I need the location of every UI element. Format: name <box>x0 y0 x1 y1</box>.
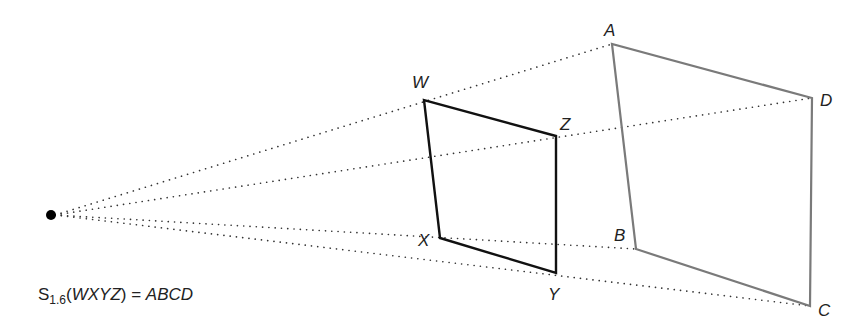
image-quadrilateral-abcd <box>612 44 812 306</box>
ray-to-d <box>55 98 812 215</box>
vertex-label-x: X <box>417 231 430 250</box>
vertex-label-z: Z <box>559 115 571 134</box>
vertex-labels: WXYZABCD <box>412 21 832 320</box>
caption-image: ABCD <box>146 285 193 304</box>
center-of-dilation-point <box>46 210 56 220</box>
caption-scale-factor: 1.6 <box>49 293 66 307</box>
vertex-label-d: D <box>820 91 832 110</box>
dilation-caption: S1.6(WXYZ) = ABCD <box>38 285 193 307</box>
caption-preimage: WXYZ <box>72 285 121 304</box>
caption-equals: = <box>126 285 145 304</box>
dilation-diagram: WXYZABCD <box>0 0 858 334</box>
vertex-label-w: W <box>412 73 430 92</box>
vertex-label-a: A <box>603 21 615 40</box>
vertex-label-c: C <box>818 301 831 320</box>
caption-operator: S <box>38 285 49 304</box>
vertex-label-y: Y <box>548 285 561 304</box>
preimage-quadrilateral-wxyz <box>424 100 556 273</box>
ray-to-b <box>55 215 636 249</box>
vertex-label-b: B <box>614 226 625 245</box>
